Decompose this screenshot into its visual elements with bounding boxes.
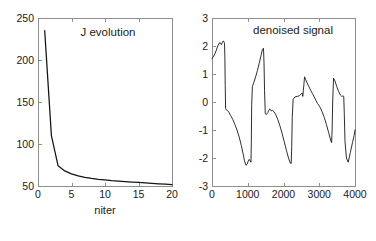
denoised-signal-axes (213, 19, 356, 187)
x-tick-label: 20 (166, 188, 178, 200)
y-tick-label: 2 (202, 40, 208, 52)
y-tick-label: 50 (22, 180, 34, 192)
x-axis-label-niter: niter (94, 204, 116, 216)
axis-frame (39, 19, 173, 187)
denoised-signal-data-line (212, 41, 355, 165)
x-tick-label: 10 (99, 188, 111, 200)
x-tick-label: 5 (69, 188, 75, 200)
y-tick-label: 250 (16, 12, 34, 24)
j-evolution-axes (39, 19, 173, 187)
y-tick-label: 150 (16, 96, 34, 108)
y-tick-label: 100 (16, 138, 34, 150)
y-tick-label: -2 (199, 152, 208, 164)
x-tick-label: 4000 (343, 188, 367, 200)
axis-tick-marks (213, 19, 356, 187)
denoised-signal-title: denoised signal (253, 24, 333, 36)
y-tick-label: 200 (16, 54, 34, 66)
j-evolution-data-line (45, 31, 172, 185)
plot-panel-j-evolution: 50100150200250 05101520 J evolution nite… (0, 0, 188, 241)
x-tick-label: 2000 (272, 188, 296, 200)
y-axis-tick-labels: -3-2-10123 (199, 12, 209, 192)
y-axis-tick-labels: 50100150200250 (16, 12, 34, 192)
x-tick-label: 3000 (308, 188, 332, 200)
y-tick-label: -3 (199, 180, 208, 192)
x-tick-label: 0 (209, 188, 215, 200)
axis-frame (213, 19, 356, 187)
y-tick-label: 3 (202, 12, 208, 24)
y-tick-label: 0 (202, 96, 208, 108)
x-tick-label: 0 (35, 188, 41, 200)
denoised-signal-chart: -3-2-10123 01000200030004000 denoised si… (188, 0, 376, 241)
x-axis-tick-labels: 01000200030004000 (209, 188, 367, 200)
plot-panel-denoised-signal: -3-2-10123 01000200030004000 denoised si… (188, 0, 376, 241)
j-evolution-chart: 50100150200250 05101520 J evolution nite… (0, 0, 188, 241)
y-tick-label: -1 (199, 124, 208, 136)
x-tick-label: 15 (133, 188, 145, 200)
x-tick-label: 1000 (236, 188, 260, 200)
j-evolution-title: J evolution (81, 26, 136, 38)
axis-tick-marks (39, 19, 173, 187)
x-axis-tick-labels: 05101520 (35, 188, 178, 200)
y-tick-label: 1 (202, 68, 208, 80)
figure-root: 50100150200250 05101520 J evolution nite… (0, 0, 376, 241)
